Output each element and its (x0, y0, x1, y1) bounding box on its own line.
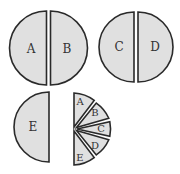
label-b: B (63, 42, 72, 56)
wedge-label-a: A (75, 96, 84, 107)
circle-cd: C D (99, 12, 173, 82)
wedge-label-e: E (76, 152, 83, 163)
wedge-label-d: D (91, 140, 99, 151)
wedge-label-b: B (91, 107, 98, 118)
circle-ab: A B (10, 11, 88, 85)
diagram-canvas: A B C D E A B C D E (0, 0, 180, 174)
half-disc-e-group: E (14, 92, 49, 162)
label-d: D (150, 40, 160, 54)
wedge-set: A B C D E (74, 93, 111, 165)
label-c: C (114, 40, 123, 54)
label-e: E (29, 120, 38, 134)
wedge-label-c: C (97, 123, 105, 134)
label-a: A (26, 42, 36, 56)
